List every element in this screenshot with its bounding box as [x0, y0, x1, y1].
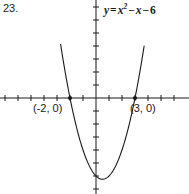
- equation-equals: =: [109, 4, 118, 16]
- intercept-label-right: (3, 0): [130, 103, 156, 114]
- equation-minus-2: −: [141, 4, 150, 16]
- problem-number: 23.: [3, 3, 18, 14]
- equation-constant: 6: [150, 4, 156, 16]
- equation-minus-1: −: [127, 4, 136, 16]
- graph-figure: 23. y=x2−x−6 (-2, 0) (3, 0): [0, 0, 189, 194]
- figure-text-layer: 23. y=x2−x−6 (-2, 0) (3, 0): [0, 0, 189, 194]
- equation-label: y=x2−x−6: [104, 3, 156, 16]
- intercept-label-left: (-2, 0): [33, 103, 62, 114]
